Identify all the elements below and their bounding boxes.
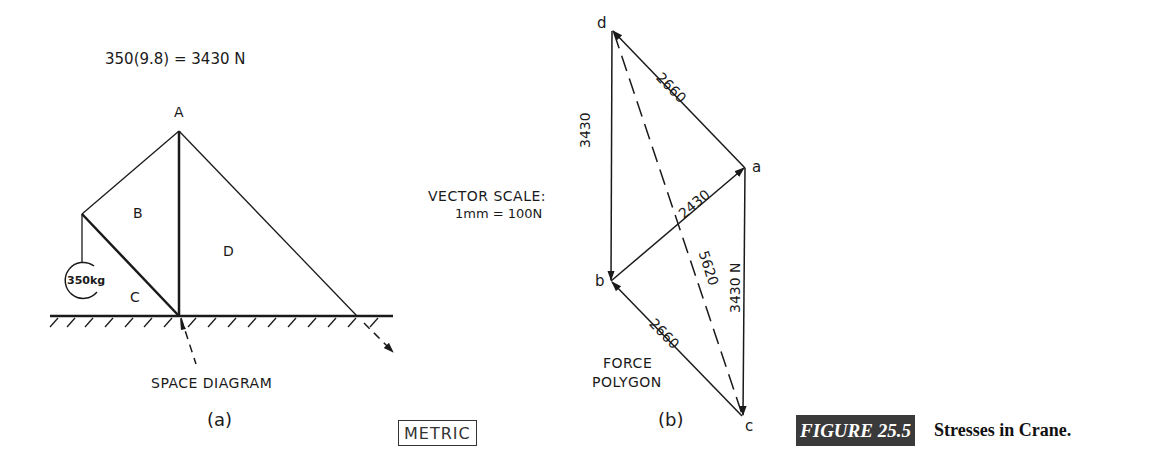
space-diagram [50,131,393,364]
vector-ac [743,168,745,415]
force-polygon-title-line1: FORCE [603,356,652,370]
region-label-c: C [130,290,140,304]
point-label-c: c [745,419,753,434]
vector-db [611,31,612,280]
tie-member [82,131,179,214]
figure-caption: Stresses in Crane. [934,420,1071,441]
vector-label-ac: 3430 N [728,262,742,313]
vector-label-db: 3430 [578,112,592,148]
mast-reaction-arrow-icon [180,318,186,330]
point-label-d: d [597,16,607,31]
force-polygon-title-line2: POLYGON [592,375,662,389]
vector-scale-title: VECTOR SCALE: [428,189,546,203]
diagram-canvas [0,0,1173,464]
space-diagram-sublabel: (a) [207,411,232,429]
point-label-b: b [595,274,605,289]
vector-ba [611,168,744,281]
vector-scale-value: 1mm = 100N [455,207,542,220]
guy-reaction-line [364,323,393,352]
region-label-b: B [133,206,143,220]
figure-number: FIGURE 25.5 [800,420,911,442]
guy-member [179,131,357,316]
joint-label-a: A [174,105,184,119]
ground-hatching [50,318,378,327]
point-label-a: a [752,160,761,175]
vector-cb [612,282,742,416]
space-diagram-title: SPACE DIAGRAM [151,376,272,390]
figure-number-badge: FIGURE 25.5 [796,415,915,446]
region-label-d: D [223,244,234,258]
metric-badge: METRIC [398,420,477,446]
load-label: 350kg [67,275,105,286]
weight-equation: 350(9.8) = 3430 N [105,52,245,67]
force-polygon-sublabel: (b) [658,411,683,429]
